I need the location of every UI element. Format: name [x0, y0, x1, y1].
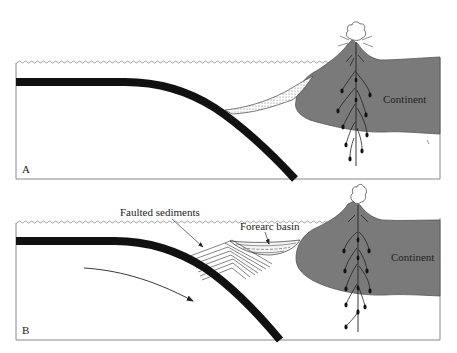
panel-a: Continent A: [16, 22, 440, 179]
panel-letter-a: A: [22, 163, 30, 175]
continent-label-a: Continent: [383, 93, 426, 105]
continent-label-b: Continent: [391, 251, 434, 263]
subducting-slab-a: [16, 82, 295, 179]
forearc-basin-label: Forearc basin: [240, 220, 300, 232]
subducting-slab-b: [16, 241, 280, 340]
continent-a: [296, 40, 440, 134]
faulted-sediments-label: Faulted sediments: [120, 206, 200, 218]
tick-mark-a: [427, 140, 429, 144]
plate-motion-arrow: [84, 268, 193, 301]
panel-letter-b: B: [22, 324, 29, 336]
forearc-basin-b: [230, 240, 300, 255]
subduction-diagram: Continent A: [0, 0, 457, 353]
sea-level-a: [16, 60, 331, 64]
eruption-cloud-b: [351, 184, 367, 203]
panel-b: Faulted sediments Forearc basin Continen…: [16, 184, 440, 340]
eruption-cloud-a: [346, 22, 365, 41]
